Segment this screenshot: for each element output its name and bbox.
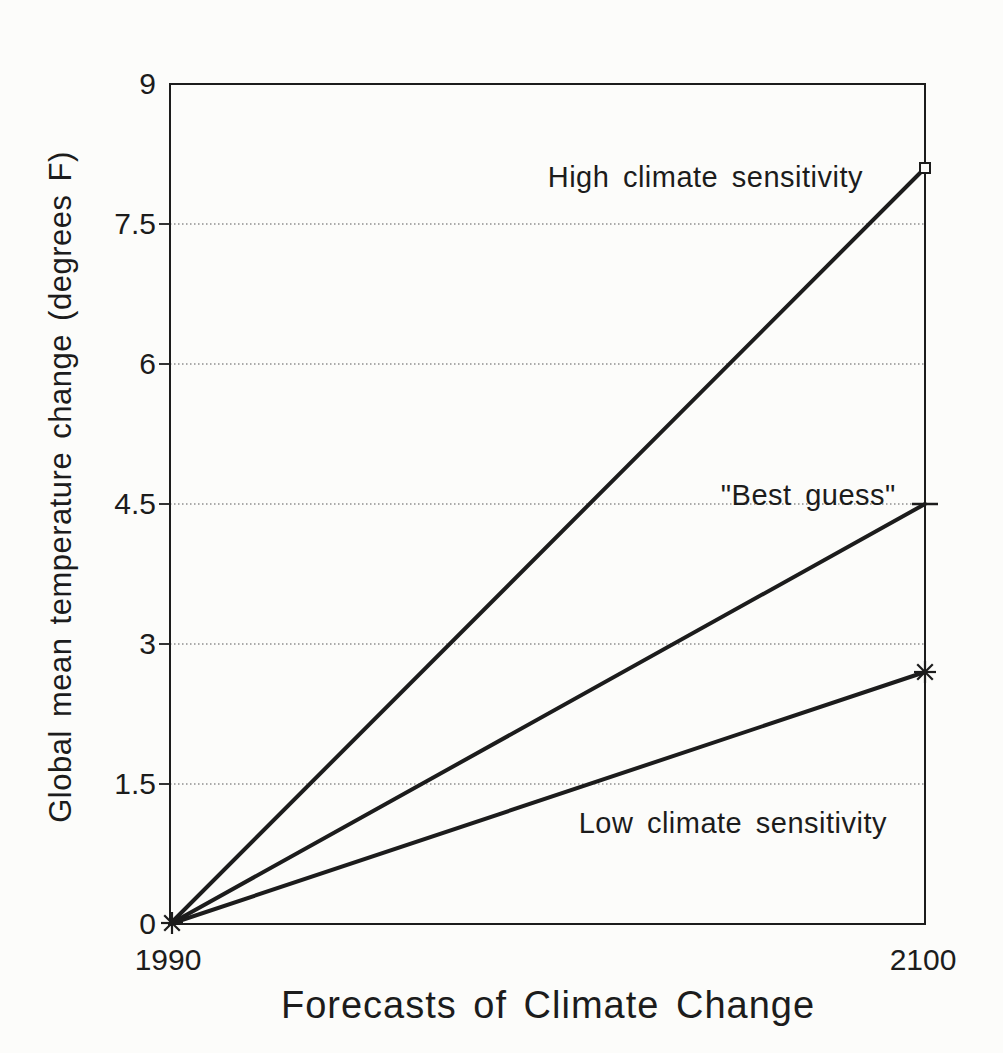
forecast-line-chart: 01.534.567.5919902100High climate sensit… — [0, 0, 1003, 1053]
series-line-best-guess — [170, 504, 925, 924]
series-line-low-climate-sensitivity — [170, 672, 925, 924]
y-tick-label: 4.5 — [114, 487, 156, 520]
end-square-marker-high-climate-sensitivity — [920, 163, 930, 173]
y-tick-label: 3 — [139, 627, 156, 660]
climate-forecast-figure: 01.534.567.5919902100High climate sensit… — [0, 0, 1003, 1053]
y-tick-label: 7.5 — [114, 207, 156, 240]
series-label-low-climate-sensitivity: Low climate sensitivity — [579, 807, 887, 839]
y-tick-label: 6 — [139, 347, 156, 380]
series-label-best-guess: "Best guess" — [721, 479, 896, 511]
y-axis-title: Global mean temperature change (degrees … — [41, 57, 81, 917]
x-axis-title: Forecasts of Climate Change — [148, 984, 948, 1026]
y-tick-label: 0 — [139, 907, 156, 940]
series-label-high-climate-sensitivity: High climate sensitivity — [548, 161, 863, 193]
x-tick-label: 1990 — [135, 943, 202, 976]
y-tick-label: 9 — [139, 67, 156, 100]
x-tick-label: 2100 — [890, 943, 957, 976]
y-tick-label: 1.5 — [114, 767, 156, 800]
